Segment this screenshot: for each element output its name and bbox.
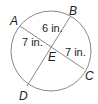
point-b-label: B <box>69 4 77 18</box>
diagram-canvas: A B C D E 6 in. 7 in. 7 in. <box>0 0 98 104</box>
segment-be-label: 6 in. <box>42 22 63 34</box>
segment-ec-label: 7 in. <box>65 46 86 58</box>
chord-diagram: A B C D E 6 in. 7 in. 7 in. <box>0 0 98 104</box>
segment-ae-label: 7 in. <box>22 36 43 48</box>
point-a-label: A <box>9 14 18 28</box>
point-c-label: C <box>85 69 94 83</box>
point-d-label: D <box>19 89 28 103</box>
point-e-label: E <box>48 50 57 64</box>
